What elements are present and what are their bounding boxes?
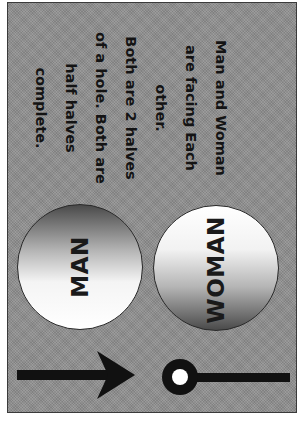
symbols-layer [0, 0, 302, 422]
ring-line-icon [162, 359, 290, 395]
arrow-icon [17, 351, 135, 399]
